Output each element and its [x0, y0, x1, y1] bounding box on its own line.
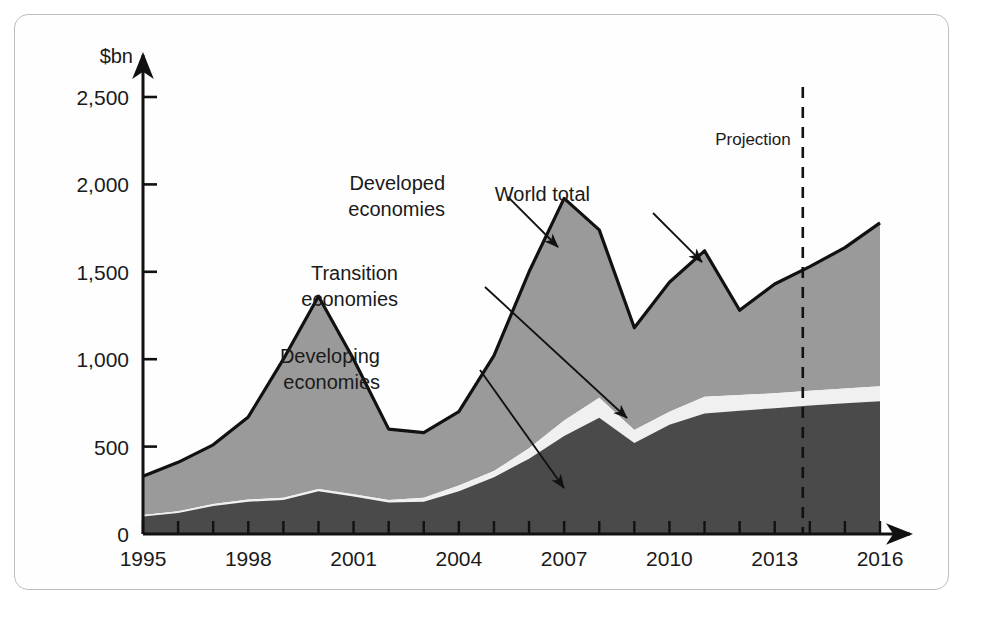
annotation-leader-line: [653, 213, 702, 262]
x-axis-tick-label: 2001: [330, 547, 377, 570]
annotation-label-line1: Developing: [280, 345, 380, 367]
y-axis-tick-labels: 05001,0001,5002,0002,500: [76, 86, 129, 546]
x-axis-tick-labels: 19951998200120042007201020132016: [120, 547, 904, 570]
y-axis-unit-label: $bn: [100, 45, 133, 67]
annotation-label-line1: Transition: [311, 262, 398, 284]
plot-areas-group: [143, 198, 880, 534]
stacked-area-chart: 05001,0001,5002,0002,500 199519982001200…: [15, 15, 950, 591]
annotation-label-line2: economies: [283, 371, 380, 393]
x-axis-tick-label: 2007: [541, 547, 588, 570]
y-axis-tick-label: 2,000: [76, 173, 129, 196]
x-axis-tick-label: 2010: [646, 547, 693, 570]
y-axis-tick-label: 0: [117, 523, 129, 546]
annotation-label-line1: Developed: [349, 172, 445, 194]
y-axis-tick-label: 1,500: [76, 261, 129, 284]
annotation-label-line2: economies: [348, 198, 445, 220]
annotation-label-line2: economies: [301, 288, 398, 310]
y-axis-ticks: [143, 97, 157, 447]
x-axis-tick-label: 2004: [435, 547, 482, 570]
y-axis-tick-label: 1,000: [76, 348, 129, 371]
x-axis-tick-label: 1995: [120, 547, 167, 570]
x-axis-tick-label: 2013: [751, 547, 798, 570]
y-axis-tick-label: 2,500: [76, 86, 129, 109]
annotation-label-line1: World total: [495, 183, 590, 205]
x-axis-tick-label: 1998: [225, 547, 272, 570]
y-axis-tick-label: 500: [94, 436, 129, 459]
x-axis-tick-label: 2016: [857, 547, 904, 570]
figure-frame: 05001,0001,5002,0002,500 199519982001200…: [14, 14, 949, 590]
projection-label: Projection: [715, 130, 791, 149]
